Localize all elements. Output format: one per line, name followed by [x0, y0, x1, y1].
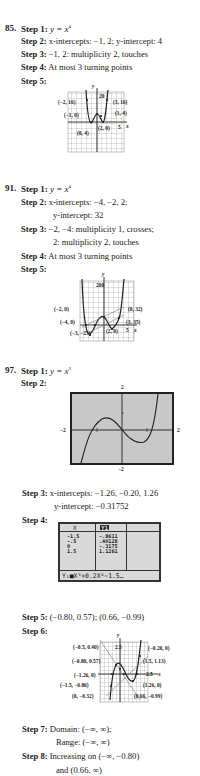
step-label: Step 5: [22, 612, 48, 622]
x-tick-label: 5 [118, 125, 121, 130]
formula-divider [60, 570, 159, 571]
point-label: (−3, −25) [70, 331, 91, 336]
x-axis-label: x [134, 328, 137, 333]
problem-97-step-7: Step 7: Domain: (−∞, ∞); [22, 725, 111, 734]
problem-97-step-4-label: Step 4: [22, 516, 48, 525]
x-cell: 1.5 [67, 549, 76, 554]
step-label: Step 7: [22, 724, 48, 734]
problem-97-step-3-cont: y-intercept: −0.31752 [54, 502, 129, 511]
problem-97-step-6-label: Step 6: [22, 627, 48, 636]
point-label: (0.66, −0.99) [134, 694, 162, 699]
step-text: (−0.80, 0.57); (0.66, −0.99) [50, 612, 144, 622]
column-divider [95, 524, 96, 571]
problem-85-step-5-label: Step 5: [21, 77, 47, 86]
problem-91-step-1: Step 1: y = x4 [21, 184, 71, 194]
point-label: (1.26, 0) [143, 683, 161, 688]
step-text: x-intercepts: −1, 2; y-intercept: 4 [49, 36, 162, 46]
step-text: x-intercepts: −1.26, −0.20, 1.26 [50, 488, 159, 498]
point-label: (−1.26, 0) [74, 673, 96, 678]
y-tick-label: 2.5 [115, 645, 122, 650]
y-axis-label: y [92, 84, 94, 89]
x-axis-label: x [126, 124, 129, 129]
step-text: −2, −4: multiplicity 1, crosses; [49, 224, 154, 234]
step-text: At most 3 turning points [48, 62, 132, 72]
step-text: Increasing on (−∞, −0.80) [50, 751, 140, 761]
step-text: −1, 2: multiplicity 2, touches [49, 49, 148, 59]
equation: y = x [50, 366, 69, 376]
point-label: (3, 16) [113, 100, 127, 105]
column-divider [126, 524, 127, 571]
step-label: Step 1: [21, 24, 48, 34]
problem-91-step-5-label: Step 5: [21, 265, 47, 274]
x-tick-label: 2.5 [146, 672, 153, 677]
point-label: (−4, 0) [60, 320, 75, 325]
step-label: Step 4: [21, 62, 47, 72]
equation: y = x [50, 184, 69, 194]
step-text: Domain: (−∞, ∞); [50, 724, 112, 734]
point-label: (0, −0.32) [72, 694, 94, 699]
step-label: Step 4: [21, 251, 47, 261]
problem-85-step-4: Step 4: At most 3 turning points [21, 63, 132, 72]
problem-91-step-3: Step 3: −2, −4: multiplicity 1, crosses; [21, 225, 154, 234]
problem-91-step-2-cont: y-intercept: 32 [53, 211, 103, 220]
window-left-label: −2 [60, 428, 66, 433]
point-label: (−1.5, −0.86) [60, 683, 89, 688]
point-label: (−0.5, 0.40) [73, 645, 99, 650]
point-label: (1.5, 1.13) [143, 659, 165, 664]
step-label: Step 2: [21, 36, 47, 46]
exponent: 4 [69, 184, 72, 189]
problem-97-step-5: Step 5: (−0.80, 0.57); (0.66, −0.99) [22, 613, 144, 622]
point-label: (3, 35) [126, 320, 140, 325]
y-axis-label: y [117, 633, 119, 638]
problem-97-step-3: Step 3: x-intercepts: −1.26, −0.20, 1.26 [22, 489, 158, 498]
point-label: (2, 0) [106, 329, 118, 334]
table-header-divider [60, 531, 159, 532]
step-label: Step 1: [21, 184, 48, 194]
step-label: Step 3: [21, 224, 47, 234]
column-header-x: X [73, 525, 77, 530]
problem-97-step-7-cont: Range: (−∞, ∞) [56, 738, 110, 747]
step-label: Step 1: [21, 366, 48, 376]
window-right-label: 2 [177, 428, 180, 433]
calculator-graph-screen [70, 392, 174, 465]
problem-91-step-3-cont: 2: multiplicity 2, touches [53, 238, 139, 247]
point-label: (−0.20, 0) [148, 646, 170, 651]
cubic-curve-plot [72, 394, 172, 463]
calculator-table: X Y1 -1.5 -.8611 -.5 .40128 0 -.3175 1.5… [58, 522, 161, 582]
point-label: (2, 0) [98, 126, 110, 131]
problem-85-step-3: Step 3: −1, 2: multiplicity 2, touches [21, 50, 148, 59]
x-axis-label: x [158, 672, 161, 677]
problem-97-step-1: Step 1: y = x3 [21, 366, 71, 376]
problem-85-step-1: Step 1: y = x4 [21, 24, 71, 34]
point-label: (1, 4) [115, 111, 127, 116]
y-tick-label: 200 [96, 283, 104, 288]
problem-97-number: 97. [5, 366, 16, 375]
x-tick-label: 5 [126, 328, 129, 333]
equation: y = x [50, 24, 69, 34]
point-label: (−0.80, 0.57) [72, 659, 100, 664]
point-label: (−2, 16) [58, 100, 75, 105]
formula-line: Y₁■X³+0.2X²−1.5… [62, 574, 124, 579]
point-label: (−2, 0) [54, 307, 69, 312]
step-label: Step 3: [21, 49, 47, 59]
y-cell: 1.1261 [99, 549, 118, 554]
step-label: Step 3: [22, 488, 48, 498]
step-label: Step 8: [22, 751, 48, 761]
problem-85-step-2: Step 2: x-intercepts: −1, 2; y-intercept… [21, 37, 162, 46]
window-bottom-label: −2 [118, 467, 124, 472]
point-label: (0, 4) [77, 131, 89, 136]
problem-97-step-8-cont: and (0.66, ∞) [56, 766, 102, 775]
y-tick-label: 20 [99, 94, 104, 99]
problem-97-step-2-label: Step 2: [21, 379, 47, 388]
y-axis-label: y [102, 272, 104, 277]
problem-97-step-8: Step 8: Increasing on (−∞, −0.80) [22, 752, 139, 761]
step-text: x-intercepts: −4, −2, 2; [49, 197, 128, 207]
step-label: Step 2: [21, 197, 47, 207]
exponent: 4 [69, 24, 72, 29]
problem-85-graph [66, 88, 128, 154]
window-top-label: 2 [121, 385, 124, 390]
problem-91-number: 91. [5, 184, 16, 193]
exponent: 3 [69, 366, 72, 371]
problem-91-step-2: Step 2: x-intercepts: −4, −2, 2; [21, 198, 127, 207]
point-label: (0, 32) [128, 307, 142, 312]
